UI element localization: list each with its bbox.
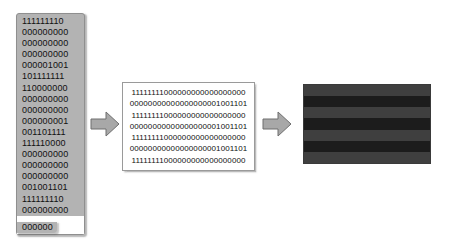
bitstream-row: 000000000 <box>17 160 84 171</box>
right-arrow-icon <box>90 110 120 138</box>
bitmap-band <box>304 152 430 163</box>
bitstream-row: 000000001 <box>17 116 84 127</box>
bitstream-truncated-wrap: 000000 <box>17 216 84 234</box>
right-arrow-icon <box>262 110 292 138</box>
bitmap-band <box>304 118 430 129</box>
bitmap-band <box>304 141 430 152</box>
bitstream-row: 000000000 <box>17 27 84 38</box>
bitstream-row: 101111111 <box>17 71 84 82</box>
bit-matrix-row: 00000000000000000001001101 <box>123 98 254 109</box>
bitmap-band <box>304 107 430 118</box>
bitstream-row: 000000000 <box>17 105 84 116</box>
bitmap-band <box>304 85 430 96</box>
bit-matrix-row: 11111111000000000000000000 <box>123 132 254 143</box>
bit-matrix-box: 1111111100000000000000000000000000000000… <box>122 82 255 171</box>
bitstream-row: 111110000 <box>17 138 84 149</box>
bitstream-row: 001001101 <box>17 182 84 193</box>
bitstream-row: 111111110 <box>17 16 84 27</box>
diagram-canvas: 1111111100000000000000000000000000000000… <box>0 0 449 241</box>
bitstream-row: 001101111 <box>17 127 84 138</box>
bitstream-row: 000000000 <box>17 171 84 182</box>
bitstream-row: 000000000 <box>17 49 84 60</box>
flow-arrow-1 <box>90 110 120 138</box>
bitstream-row: 111111110 <box>17 194 84 205</box>
bit-matrix-row: 00000000000000000001001101 <box>123 121 254 132</box>
bit-matrix-row: 11111111000000000000000000 <box>123 110 254 121</box>
bit-matrix-row: 11111111000000000000000000 <box>123 87 254 98</box>
bitmap-band <box>304 96 430 107</box>
bitstream-column: 1111111100000000000000000000000000000000… <box>16 13 85 235</box>
bitstream-row: 000000000 <box>17 38 84 49</box>
bit-matrix-row-list: 1111111100000000000000000000000000000000… <box>123 87 254 166</box>
bitmap-band <box>304 130 430 141</box>
rendered-bitmap-image <box>303 84 431 164</box>
bitstream-row-list: 1111111100000000000000000000000000000000… <box>17 16 84 216</box>
bitstream-row: 110000000 <box>17 83 84 94</box>
bitstream-row-truncated: 000000 <box>17 222 57 233</box>
bitstream-row: 000000000 <box>17 94 84 105</box>
bitstream-row: 000000000 <box>17 149 84 160</box>
bit-matrix-row: 11111111000000000000000000 <box>123 155 254 166</box>
flow-arrow-2 <box>262 110 292 138</box>
bitstream-row: 000001001 <box>17 60 84 71</box>
bit-matrix-row: 00000000000000000001001101 <box>123 143 254 154</box>
bitstream-row: 000000000 <box>17 205 84 216</box>
